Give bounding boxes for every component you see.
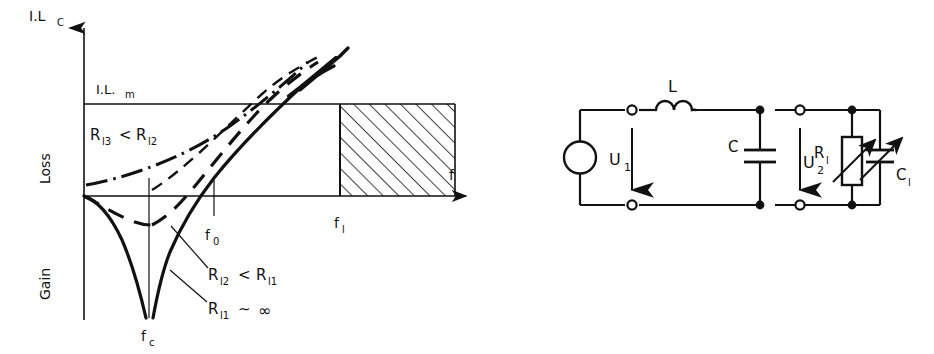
source-branch: [564, 110, 596, 205]
ann1-sub1: l3: [102, 136, 111, 147]
figure-root: I.L C Loss Gain f I.L. m: [0, 0, 934, 354]
ann2-r1: R: [208, 266, 218, 284]
series-rl3-dashdot-curve: [86, 62, 308, 185]
capacitor-c-label: C: [728, 138, 738, 156]
output-terminal-top: [795, 105, 804, 114]
ann3-r1: R: [208, 300, 218, 318]
fc-label-sub: c: [149, 337, 155, 348]
cl-label-sub: l: [908, 177, 911, 188]
input-terminal-top: [627, 105, 636, 114]
rl-label-sub: l: [826, 155, 829, 166]
ann3-inf: ∞: [258, 301, 271, 320]
input-terminal-bottom: [627, 200, 636, 209]
annotation-rl3-lt-rl2: R l3 < R l2: [90, 126, 157, 147]
ann1-r2: R: [136, 126, 146, 144]
ann1-rel: <: [119, 126, 132, 144]
f0-label-sub: 0: [213, 236, 219, 247]
annotation-rl2-lt-rl1: R l2 < R l1: [171, 226, 277, 287]
loss-label: Loss: [37, 153, 53, 184]
ann2-rel: <: [238, 266, 251, 284]
u2-label-sub: 2: [817, 164, 824, 177]
chart-svg: I.L C Loss Gain f I.L. m: [0, 0, 500, 354]
u1-label-sub: 1: [624, 161, 631, 174]
curve-convergence-bundle: [288, 48, 348, 96]
gain-label: Gain: [37, 268, 53, 300]
f0-label-main: f: [205, 227, 211, 243]
ilm-label-main: I.L.: [96, 82, 115, 97]
chart-panel: I.L C Loss Gain f I.L. m: [0, 0, 500, 354]
ann2-r2: R: [256, 266, 266, 284]
resistor-Rl: R l: [814, 106, 875, 210]
ann3-sub1: l1: [220, 310, 229, 321]
inductor-label: L: [668, 77, 677, 96]
circuit-panel: U 1 L C: [500, 0, 934, 354]
max-insertion-loss-label: I.L. m: [96, 82, 135, 100]
capacitor-Cl: C l: [860, 110, 911, 205]
output-terminal-bottom: [795, 200, 804, 209]
ann2-sub2: l1: [268, 276, 277, 287]
voltage-u1: U 1: [609, 128, 632, 190]
y-axis-title-main: I.L: [29, 8, 46, 24]
fl-label-main: f: [334, 215, 340, 231]
tick-fl: f l: [334, 215, 345, 235]
circuit-svg: U 1 L C: [500, 0, 934, 354]
ann3-rel: ∼: [238, 300, 251, 318]
stopband-hatch: [340, 104, 455, 196]
tick-fc: f c: [141, 178, 155, 348]
fc-label-main: f: [141, 328, 147, 344]
y-axis-title: I.L C: [29, 8, 64, 28]
ann2-sub1: l2: [220, 276, 229, 287]
u2-label-main: U: [803, 153, 815, 172]
rl-label-main: R: [814, 144, 824, 162]
ann1-r1: R: [90, 126, 100, 144]
gain-label-text: Gain: [37, 268, 53, 300]
ilm-label-sub: m: [125, 89, 135, 100]
ann1-sub2: l2: [148, 136, 157, 147]
cl-label-main: C: [896, 166, 906, 184]
fl-label-sub: l: [342, 224, 345, 235]
capacitor-C: C: [728, 110, 776, 205]
u1-label-main: U: [609, 150, 621, 169]
loss-label-text: Loss: [37, 153, 53, 184]
source-symbol: [564, 142, 596, 174]
y-axis-title-sub: C: [57, 17, 64, 28]
inductor-L: L: [656, 77, 696, 110]
